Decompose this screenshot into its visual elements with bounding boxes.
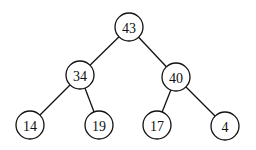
node-label: 14	[23, 119, 37, 134]
tree-nodes: 4334401419174	[16, 13, 239, 140]
node-label: 43	[122, 21, 136, 36]
tree-node: 14	[16, 111, 44, 139]
tree-node: 43	[115, 13, 143, 41]
tree-node: 17	[143, 111, 171, 139]
tree-node: 34	[66, 61, 94, 89]
node-label: 19	[92, 119, 106, 134]
node-label: 34	[73, 69, 87, 84]
tree-node: 19	[85, 111, 113, 139]
node-label: 40	[169, 71, 183, 86]
binary-tree-diagram: 4334401419174	[0, 0, 256, 150]
node-label: 17	[150, 119, 164, 134]
tree-node: 40	[162, 63, 190, 91]
node-label: 4	[222, 120, 229, 135]
tree-node: 4	[211, 112, 239, 140]
tree-edges	[30, 27, 225, 126]
